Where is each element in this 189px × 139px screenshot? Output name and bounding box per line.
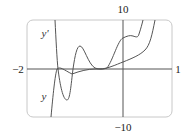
y-prime-curve-label: y'	[40, 27, 49, 39]
y-curve-label: y	[41, 90, 47, 102]
x-max-label: 1	[175, 63, 181, 75]
curve-y-prime	[55, 20, 143, 100]
x-min-label: −2	[12, 63, 24, 75]
chart: 10 −10 −2 1 y' y	[0, 0, 189, 139]
y-min-label: −10	[114, 121, 132, 133]
y-max-label: 10	[118, 3, 130, 15]
